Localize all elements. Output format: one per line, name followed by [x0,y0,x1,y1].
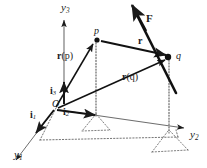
origin-label: O [52,99,59,109]
point-label-q: q [176,51,181,61]
basis-label-i1: i1 [30,110,36,121]
point-label-p: p [94,26,99,36]
vector-label-r-p: r(p) [57,51,73,61]
axis-label-y1: y1 [14,149,23,162]
diagram-canvas [0,0,207,168]
axis-label-y3: y3 [61,2,70,15]
basis-label-i2: i2 [63,107,69,118]
point-marker-p [94,37,99,42]
point-marker-q [165,54,171,60]
vector-label-F: F [146,13,153,24]
vector-diagram-figure: y1 y2 y3 i1 i2 i3 O p q r(p) r(q) r F [0,0,207,168]
vector-F [132,5,146,31]
vector-label-r-relative: r [138,36,142,46]
axis-label-y2: y2 [190,129,199,142]
vector-label-r-q: r(q) [122,72,138,82]
basis-label-i3: i3 [50,86,56,97]
basis-vector-i1 [36,110,54,133]
projection-outline-q [152,131,188,152]
vector-r-q [58,60,165,108]
